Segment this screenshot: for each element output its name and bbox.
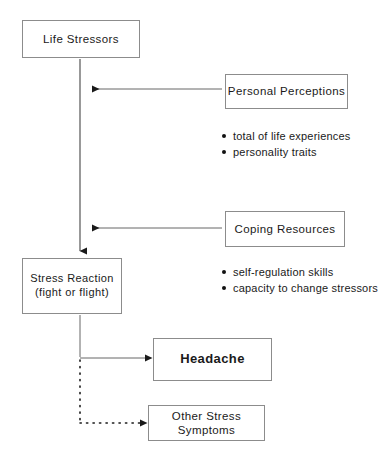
node-other-stress-symptoms-label: Other Stress Symptoms (149, 409, 264, 438)
bullet-dot-icon (222, 134, 226, 138)
node-stress-reaction: Stress Reaction (fight or flight) (22, 258, 122, 314)
node-personal-perceptions: Personal Perceptions (225, 74, 348, 109)
bullet-dot-icon (222, 286, 226, 290)
node-other-stress-symptoms: Other Stress Symptoms (148, 405, 265, 441)
node-headache-label: Headache (180, 351, 245, 367)
node-coping-resources-label: Coping Resources (234, 222, 335, 236)
node-personal-perceptions-label: Personal Perceptions (228, 84, 345, 98)
list-item: self-regulation skills (222, 264, 378, 280)
list-item: personality traits (222, 144, 351, 160)
node-life-stressors: Life Stressors (22, 20, 140, 58)
list-item-label: personality traits (233, 146, 317, 158)
node-coping-resources: Coping Resources (225, 211, 345, 247)
list-item-label: self-regulation skills (233, 266, 333, 278)
list-item: capacity to change stressors (222, 280, 378, 296)
list-item-label: capacity to change stressors (233, 282, 378, 294)
list-item-label: total of life experiences (233, 130, 351, 142)
bullet-dot-icon (222, 150, 226, 154)
bullet-dot-icon (222, 270, 226, 274)
stress-headache-diagram: Life Stressors Personal Perceptions tota… (0, 0, 385, 469)
bullet-list-coping-resources: self-regulation skills capacity to chang… (222, 264, 378, 296)
node-stress-reaction-label: Stress Reaction (fight or flight) (30, 272, 114, 300)
node-life-stressors-label: Life Stressors (43, 32, 119, 46)
bullet-list-personal-perceptions: total of life experiences personality tr… (222, 128, 351, 160)
list-item: total of life experiences (222, 128, 351, 144)
node-headache: Headache (153, 338, 272, 381)
